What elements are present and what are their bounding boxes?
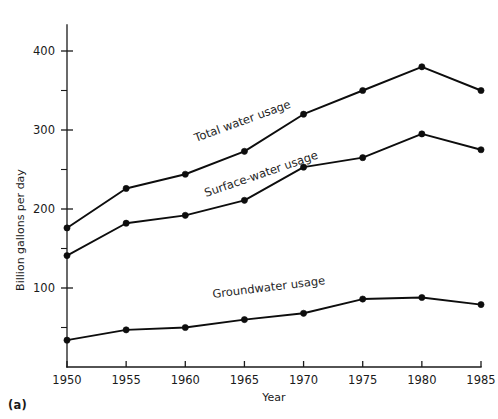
figure-panel: 100200300400 195019551960196519701975198… <box>0 0 498 419</box>
x-tick-label: 1965 <box>230 373 259 387</box>
line-chart: 100200300400 195019551960196519701975198… <box>0 0 498 419</box>
data-point <box>123 185 129 191</box>
data-point <box>360 296 366 302</box>
x-tick-label: 1950 <box>52 373 81 387</box>
data-point <box>360 87 366 93</box>
y-axis-title: Billion gallons per day <box>14 169 27 291</box>
data-point <box>478 147 484 153</box>
data-point <box>123 327 129 333</box>
data-point <box>64 337 70 343</box>
x-tick-label: 1970 <box>289 373 318 387</box>
data-point <box>478 87 484 93</box>
data-point <box>419 294 425 300</box>
x-tick-label: 1975 <box>348 373 377 387</box>
x-tick-label: 1960 <box>171 373 200 387</box>
data-point <box>300 310 306 316</box>
data-point <box>123 220 129 226</box>
data-point <box>241 317 247 323</box>
data-point <box>419 64 425 70</box>
data-point <box>182 212 188 218</box>
data-point <box>478 301 484 307</box>
panel-label: (a) <box>8 398 27 412</box>
data-point <box>182 324 188 330</box>
data-point <box>419 131 425 137</box>
y-tick-label: 300 <box>33 123 55 137</box>
x-tick-label: 1955 <box>112 373 141 387</box>
data-point <box>182 171 188 177</box>
y-tick-label: 100 <box>33 281 55 295</box>
y-tick-label: 400 <box>33 44 55 58</box>
data-point <box>241 148 247 154</box>
data-point <box>241 197 247 203</box>
data-point <box>360 155 366 161</box>
x-tick-label: 1980 <box>407 373 436 387</box>
data-point <box>64 253 70 259</box>
x-tick-label: 1985 <box>466 373 495 387</box>
data-point <box>300 111 306 117</box>
data-point <box>64 225 70 231</box>
chart-background <box>0 0 498 419</box>
y-tick-label: 200 <box>33 202 55 216</box>
x-axis-title: Year <box>261 391 286 404</box>
